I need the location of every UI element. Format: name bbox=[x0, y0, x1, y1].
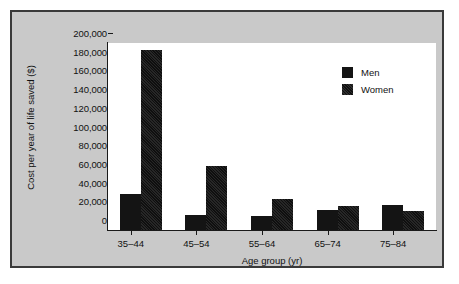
y-tick: 60,000 bbox=[52, 159, 113, 170]
x-tick-label: 65–74 bbox=[298, 238, 358, 249]
y-tick: 120,000 bbox=[52, 103, 113, 114]
y-tick-label: 140,000 bbox=[73, 84, 107, 95]
x-tick-mark bbox=[131, 231, 132, 235]
legend-label-men: Men bbox=[361, 67, 379, 78]
bar-women-1 bbox=[206, 166, 227, 230]
y-tick-label: 120,000 bbox=[73, 103, 107, 114]
x-axis-title: Age group (yr) bbox=[108, 255, 436, 266]
bar-women-3 bbox=[338, 206, 359, 230]
x-tick-mark bbox=[196, 231, 197, 235]
x-tick-label: 35–44 bbox=[101, 238, 161, 249]
y-tick: 0 bbox=[52, 215, 113, 226]
y-tick-label: 40,000 bbox=[79, 178, 107, 189]
x-tick-mark bbox=[393, 231, 394, 235]
bar-men-0 bbox=[120, 194, 141, 230]
y-tick-label: 0 bbox=[102, 215, 107, 226]
y-tick-label: 200,000 bbox=[73, 28, 107, 39]
bar-men-4 bbox=[382, 205, 403, 230]
y-tick: 20,000 bbox=[52, 196, 113, 207]
x-tick-label: 45–54 bbox=[166, 238, 226, 249]
y-tick: 180,000 bbox=[52, 47, 113, 58]
x-tick-label: 55–64 bbox=[232, 238, 292, 249]
bar-men-1 bbox=[185, 215, 206, 230]
y-tick: 160,000 bbox=[52, 65, 113, 76]
x-tick-label: 75–84 bbox=[363, 238, 423, 249]
bar-men-3 bbox=[317, 210, 338, 230]
bar-women-0 bbox=[141, 50, 162, 230]
y-tick-label: 160,000 bbox=[73, 65, 107, 76]
x-tick-mark bbox=[262, 231, 263, 235]
y-tick: 100,000 bbox=[52, 122, 113, 133]
bar-women-2 bbox=[272, 199, 293, 230]
y-tick-mark bbox=[108, 33, 113, 34]
figure: 200,000180,000160,000140,000120,000100,0… bbox=[0, 0, 459, 284]
x-tick-mark bbox=[328, 231, 329, 235]
y-tick: 80,000 bbox=[52, 140, 113, 151]
y-tick-label: 60,000 bbox=[79, 159, 107, 170]
legend: Men Women bbox=[342, 64, 432, 98]
y-tick-label: 180,000 bbox=[73, 47, 107, 58]
legend-swatch-women-icon bbox=[342, 84, 353, 95]
legend-label-women: Women bbox=[361, 84, 394, 95]
y-axis-title: Cost per year of life saved ($) bbox=[25, 43, 36, 213]
legend-item-men: Men bbox=[342, 64, 432, 81]
chart-panel: 200,000180,000160,000140,000120,000100,0… bbox=[10, 10, 444, 268]
bar-men-2 bbox=[251, 216, 272, 230]
y-tick: 40,000 bbox=[52, 178, 113, 189]
legend-swatch-men-icon bbox=[342, 67, 353, 78]
y-tick: 200,000 bbox=[52, 28, 113, 39]
bar-women-4 bbox=[403, 211, 424, 230]
x-axis-line bbox=[107, 230, 437, 231]
y-tick-label: 100,000 bbox=[73, 122, 107, 133]
y-tick-label: 20,000 bbox=[79, 196, 107, 207]
y-tick-label: 80,000 bbox=[79, 140, 107, 151]
legend-item-women: Women bbox=[342, 81, 432, 98]
y-tick: 140,000 bbox=[52, 84, 113, 95]
